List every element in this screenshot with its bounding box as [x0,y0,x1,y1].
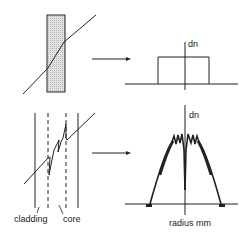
fiber-cross-section: cladding core [14,113,95,224]
graded-profile-right [185,134,221,204]
diagram-canvas: dn cladding core dn radius mm [0,0,250,235]
core-label: core [63,214,81,224]
graded-profile-left [150,134,185,204]
bottom-arrow [92,151,131,155]
dn-label-bottom: dn [189,110,199,120]
dn-label-top: dn [188,39,198,49]
cladding-pointer [37,207,39,213]
step-index-plot: dn [125,39,238,90]
radius-axis-label: radius mm [169,218,211,228]
top-arrow [92,57,131,61]
step-profile [158,57,209,84]
top-left-element [23,15,96,94]
graded-index-plot: dn radius mm [125,105,238,228]
cladding-label: cladding [14,214,48,224]
shaded-rectangle [47,15,65,92]
foot-dip-left [146,204,152,207]
core-pointer [59,205,63,214]
foot-dip-right [219,204,225,207]
